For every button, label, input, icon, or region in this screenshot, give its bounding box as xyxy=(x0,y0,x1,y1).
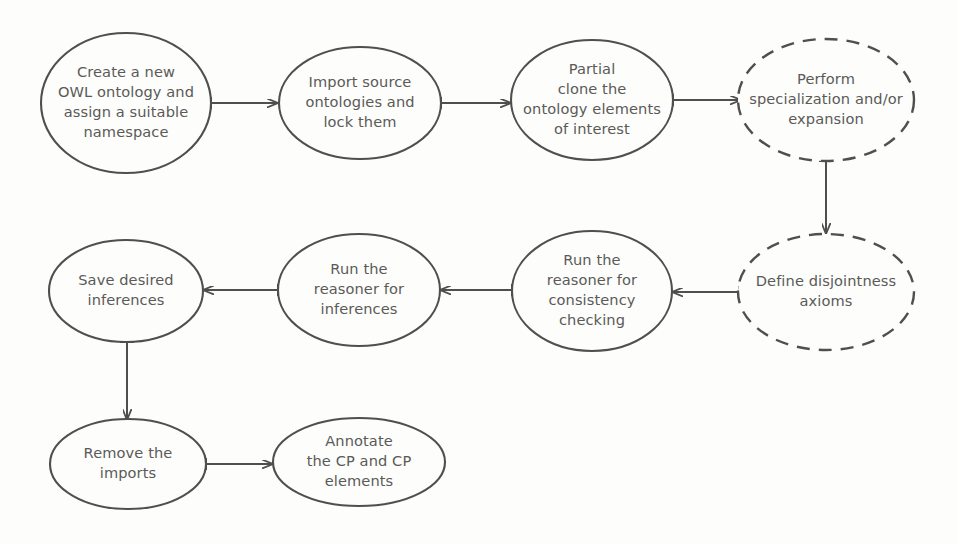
node-label-line: clone the xyxy=(558,80,627,97)
perform-specialization-expansion-node[interactable]: Performspecialization and/orexpansion xyxy=(738,39,914,161)
node-label-line: inferences xyxy=(321,300,398,317)
node-label-line: Run the xyxy=(330,260,387,277)
node-label-line: Run the xyxy=(563,251,620,268)
edge-create-to-import xyxy=(211,97,277,109)
node-label-line: specialization and/or xyxy=(749,90,903,107)
flowchart-canvas: Create a newOWL ontology andassign a sui… xyxy=(0,0,957,544)
edges-layer xyxy=(120,94,833,470)
edge-inferences-to-save xyxy=(204,284,278,296)
edge-partial-clone-to-specialization xyxy=(673,94,740,106)
node-label-line: checking xyxy=(559,311,625,328)
edge-import-to-partial-clone xyxy=(441,97,510,109)
flowchart-svg: Create a newOWL ontology andassign a sui… xyxy=(0,0,957,544)
node-label-line: the CP and CP xyxy=(307,452,412,469)
partial-clone-elements-node[interactable]: Partialclone theontology elementsof inte… xyxy=(511,40,673,160)
node-label-line: Perform xyxy=(797,70,855,87)
run-reasoner-inferences-node[interactable]: Run thereasoner forinferences xyxy=(278,234,440,346)
node-label-line: Create a new xyxy=(77,63,175,80)
node-label-line: Save desired xyxy=(78,271,173,288)
node-label-line: ontologies and xyxy=(305,93,414,110)
node-label-line: reasoner for xyxy=(547,271,637,288)
node-label-line: expansion xyxy=(788,110,864,127)
nodes-layer: Create a newOWL ontology andassign a sui… xyxy=(41,33,914,509)
node-label-line: namespace xyxy=(83,123,168,140)
edge-remove-imports-to-annotate xyxy=(206,458,272,470)
edge-consistency-to-inferences xyxy=(441,284,512,296)
node-label-line: consistency xyxy=(548,291,635,308)
node-label-line: reasoner for xyxy=(314,280,404,297)
node-label-line: imports xyxy=(100,464,157,481)
node-label-line: elements xyxy=(325,472,394,489)
define-disjointness-axioms-node[interactable]: Define disjointnessaxioms xyxy=(738,234,914,350)
annotate-cp-elements-node[interactable]: Annotatethe CP and CPelements xyxy=(273,418,445,506)
import-source-ontologies-node[interactable]: Import sourceontologies andlock them xyxy=(279,47,441,159)
node-label-line: assign a suitable xyxy=(64,103,189,120)
remove-the-imports-node[interactable]: Remove theimports xyxy=(50,419,206,509)
node-label-line: OWL ontology and xyxy=(58,83,194,100)
node-label-line: axioms xyxy=(800,292,853,309)
edge-disjointness-to-consistency xyxy=(673,286,739,298)
edge-specialization-to-disjointness xyxy=(819,161,833,233)
node-label-line: Annotate xyxy=(325,432,393,449)
edge-save-to-remove-imports xyxy=(120,342,134,419)
save-desired-inferences-node[interactable]: Save desiredinferences xyxy=(49,240,203,342)
node-label-line: Remove the xyxy=(84,444,173,461)
node-label-line: Define disjointness xyxy=(756,272,897,289)
node-label-line: lock them xyxy=(323,113,396,130)
node-label-line: ontology elements xyxy=(523,100,661,117)
node-label-line: Partial xyxy=(569,60,616,77)
node-label-line: inferences xyxy=(88,291,165,308)
node-label-line: Import source xyxy=(309,73,412,90)
create-new-owl-ontology-node[interactable]: Create a newOWL ontology andassign a sui… xyxy=(41,33,211,173)
run-reasoner-consistency-checking-node[interactable]: Run thereasoner forconsistencychecking xyxy=(512,231,672,351)
node-label-line: of interest xyxy=(554,120,630,137)
